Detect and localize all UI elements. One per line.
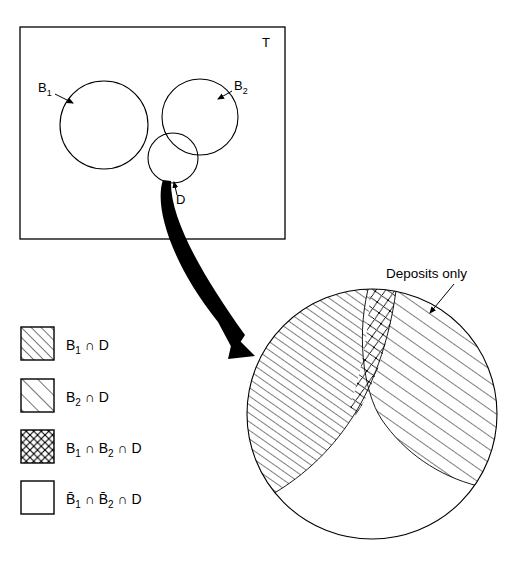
figure-svg: T B1 B2 D [0, 0, 509, 561]
venn-diagram-group: T B1 B2 D [20, 27, 285, 239]
legend-label-0: B1 ∩ D [66, 337, 109, 356]
legend-item-3: B̄1 ∩ B̄2 ∩ D [21, 481, 142, 514]
legend-label-1: B2 ∩ D [66, 389, 109, 408]
legend-swatch-b2-d [21, 379, 54, 412]
legend-swatch-b1-b2-d [21, 430, 54, 463]
legend-swatch-not-b1-not-b2-d [21, 481, 54, 514]
legend-label-2: B1 ∩ B2 ∩ D [66, 440, 142, 459]
universe-label-t: T [262, 35, 270, 50]
callout-leader-deposits-only [430, 284, 454, 313]
detail-circle-group: Deposits only [240, 266, 509, 552]
figure-root: T B1 B2 D [0, 0, 509, 561]
legend-swatch-b1-d [21, 327, 54, 360]
venn-label-d: D [176, 192, 185, 207]
legend-item-2: B1 ∩ B2 ∩ D [21, 430, 142, 463]
callout-label-deposits-only: Deposits only [386, 266, 467, 281]
legend-group: B1 ∩ D B2 ∩ D B1 ∩ B2 ∩ D [21, 327, 142, 514]
universe-box-t [20, 27, 285, 239]
legend-item-0: B1 ∩ D [21, 327, 109, 360]
legend-label-3: B̄1 ∩ B̄2 ∩ D [66, 491, 142, 510]
legend-item-1: B2 ∩ D [21, 379, 109, 412]
